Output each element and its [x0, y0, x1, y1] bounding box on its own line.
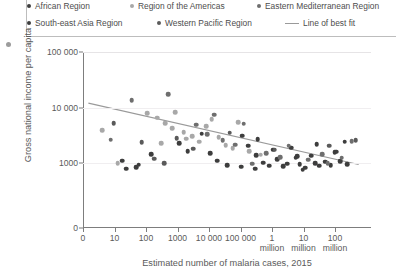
scatter-point: [170, 126, 175, 131]
legend-item-region-of-the-americas: Region of the Americas: [130, 1, 225, 11]
scatter-point: [162, 161, 167, 166]
x-tick-label-line2: million: [291, 243, 315, 253]
legend-item-label: Line of best fit: [303, 18, 355, 28]
scatter-point: [250, 161, 255, 166]
scatter-point: [186, 149, 191, 154]
scatter-point: [258, 153, 263, 158]
scatter-point: [200, 131, 205, 136]
scatter-point: [130, 98, 135, 103]
scatter-point: [267, 163, 272, 168]
scatter-point: [139, 140, 144, 145]
scatter-point: [228, 131, 233, 136]
y-tick-mark: [79, 52, 83, 53]
y-tick-label: 0: [73, 223, 78, 233]
scatter-point: [223, 143, 228, 148]
legend-item-label: African Region: [35, 1, 90, 11]
y-tick-label: 100 000: [47, 47, 78, 57]
x-tick-label: 100million: [323, 233, 347, 253]
scatter-point: [111, 121, 116, 126]
legend-item-label: Eastern Mediterranean Region: [265, 1, 379, 11]
legend-item-western-pacific-region: Western Pacific Region: [157, 18, 252, 28]
scatter-point: [190, 134, 195, 139]
scatter-point: [253, 166, 258, 171]
scatter-point: [215, 158, 220, 163]
scatter-point: [236, 120, 241, 125]
y-gridline: [83, 52, 371, 53]
y-tick-mark: [79, 163, 83, 164]
scatter-point: [205, 132, 210, 137]
x-axis-title: Estimated number of malaria cases, 2015: [83, 258, 371, 268]
scatter-point: [345, 162, 350, 167]
scatter-point: [152, 156, 157, 161]
x-tick-label-line1: 100: [139, 233, 153, 243]
scatter-point: [109, 137, 114, 142]
scatter-point: [184, 136, 189, 141]
scatter-point: [100, 128, 105, 133]
legend-dot-icon: [257, 4, 261, 8]
scatter-point: [261, 160, 266, 165]
x-tick-label-line2: million: [323, 243, 347, 253]
x-tick-label-line2: million: [260, 243, 284, 253]
legend-item-african-region: African Region: [27, 1, 90, 11]
y-tick-mark: [79, 107, 83, 108]
x-tick-label-line1: 1: [260, 233, 284, 243]
scatter-point: [221, 138, 226, 143]
scatter-point: [239, 165, 244, 170]
scatter-point: [278, 155, 283, 160]
scatter-point: [155, 116, 160, 121]
scatter-point: [242, 121, 247, 126]
x-tick-label: 1million: [260, 233, 284, 253]
y-tick-label: 10 000: [52, 103, 78, 113]
x-tick-mark: [83, 228, 84, 232]
legend-dot-icon: [27, 4, 31, 8]
scatter-point: [298, 162, 303, 167]
scatter-point: [246, 143, 251, 148]
x-tick-mark: [272, 228, 273, 232]
plot-area: 100 00010 00010000010100100010 000100 00…: [83, 52, 371, 228]
x-tick-mark: [146, 228, 147, 232]
scatter-point: [209, 117, 214, 122]
legend-row-top: African RegionRegion of the AmericasEast…: [27, 1, 396, 18]
scatter-point: [272, 147, 277, 152]
x-tick-label-line1: 100: [323, 233, 347, 243]
x-tick-label: 0: [81, 233, 86, 243]
scatter-point: [306, 157, 311, 162]
x-tick-label: 10million: [291, 233, 315, 253]
x-tick-label-line1: 10 000: [196, 233, 222, 243]
scatter-point: [134, 165, 139, 170]
scatter-point: [264, 151, 269, 156]
scatter-point: [354, 138, 359, 143]
scatter-point: [166, 92, 171, 97]
scatter-point: [314, 142, 319, 147]
scatter-point: [212, 112, 217, 117]
y-tick-label: 1000: [59, 158, 78, 168]
legend-row-bottom: South-east Asia RegionWestern Pacific Re…: [27, 18, 396, 35]
scatter-point: [145, 111, 150, 116]
x-tick-label: 100 000: [225, 233, 256, 243]
scatter-point: [285, 162, 290, 167]
malaria-gni-scatter-figure: African RegionRegion of the AmericasEast…: [0, 0, 396, 277]
chart-legend: African RegionRegion of the AmericasEast…: [26, 0, 396, 37]
scatter-point: [342, 140, 347, 145]
x-tick-label-line1: 0: [81, 233, 86, 243]
legend-item-eastern-mediterranean-region: Eastern Mediterranean Region: [257, 1, 379, 11]
scatter-point: [120, 158, 125, 163]
x-tick-mark: [335, 228, 336, 232]
x-tick-mark: [304, 228, 305, 232]
scatter-point: [320, 152, 325, 157]
scatter-point: [334, 149, 339, 154]
legend-dot-icon: [157, 21, 161, 25]
scatter-point: [247, 149, 252, 154]
legend-line-icon: [285, 23, 299, 24]
line-of-best-fit: [83, 52, 371, 228]
scatter-point: [208, 151, 213, 156]
x-tick-label: 1000: [168, 233, 187, 243]
x-tick-mark: [241, 228, 242, 232]
scatter-point: [317, 163, 322, 168]
scatter-point: [256, 137, 261, 142]
scatter-point: [177, 141, 182, 146]
scatter-point: [240, 133, 245, 138]
scatter-point: [233, 142, 238, 147]
x-tick-mark: [178, 228, 179, 232]
scatter-point: [124, 166, 129, 171]
